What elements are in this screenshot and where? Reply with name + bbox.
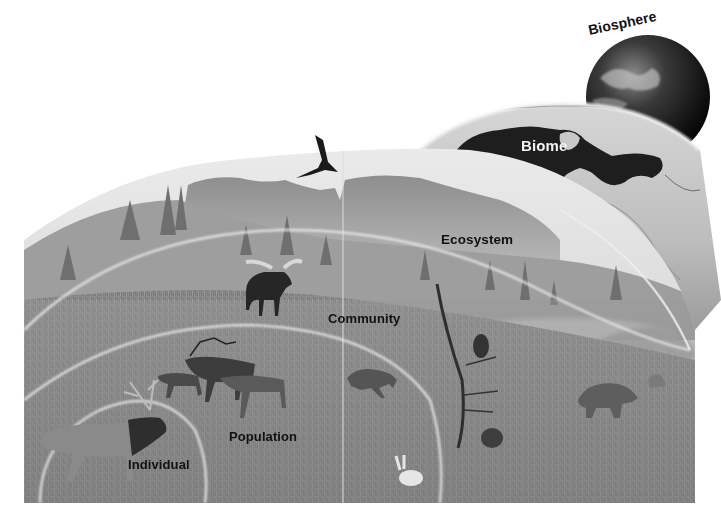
label-ecosystem: Ecosystem [441,232,513,247]
label-population: Population [229,429,297,444]
label-community: Community [328,311,400,326]
beaver-illustration [481,428,503,448]
owl-illustration [473,334,489,358]
label-individual: Individual [128,457,190,472]
label-biome: Biome [521,137,567,154]
ecology-levels-diagram: Biosphere Biome Ecosystem Community Popu… [0,0,721,525]
